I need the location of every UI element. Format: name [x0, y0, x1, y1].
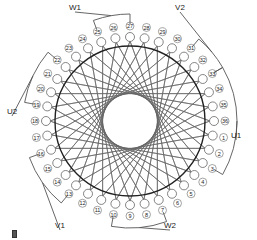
slot-circle: [97, 38, 106, 47]
stator-winding-svg: 1234567891011121314151617181920212223242…: [0, 0, 257, 240]
slot-number-label: 15: [45, 166, 51, 172]
coil-lines: [50, 41, 210, 201]
winding-diagram: 1234567891011121314151617181920212223242…: [0, 0, 257, 240]
slot-number-label: 19: [33, 102, 39, 108]
slot-number-label: 24: [79, 36, 85, 42]
slot-circle: [154, 38, 163, 47]
slot-number-label: 6: [176, 200, 179, 206]
slot-circle: [111, 34, 120, 43]
slot-circle: [53, 75, 62, 84]
slot-circle: [111, 199, 120, 208]
slot-circle: [204, 145, 213, 154]
slot-markers: 1234567891011121314151617181920212223242…: [31, 22, 229, 220]
slot-number-label: 11: [95, 207, 101, 213]
terminal-arc: [111, 212, 166, 228]
slot-circle: [190, 170, 199, 179]
slot-number-label: 27: [127, 23, 133, 29]
slot-circle: [198, 75, 207, 84]
slot-circle: [126, 201, 135, 210]
slot-number-label: 30: [174, 36, 180, 42]
terminal-lead-line: [180, 12, 212, 52]
slot-circle: [42, 117, 51, 126]
slot-number-label: 16: [38, 151, 44, 157]
slot-number-label: 32: [200, 57, 206, 63]
slot-circle: [47, 145, 56, 154]
slot-number-label: 9: [128, 213, 131, 219]
slot-circle: [43, 131, 52, 140]
slot-number-label: 21: [45, 71, 51, 77]
slot-circle: [97, 195, 106, 204]
slot-circle: [43, 102, 52, 111]
slot-circle: [72, 181, 81, 190]
stator-core-circle: [55, 46, 205, 196]
slot-number-label: 18: [32, 118, 38, 124]
slot-circle: [84, 189, 93, 198]
slot-circle: [179, 181, 188, 190]
slot-circle: [140, 34, 149, 43]
slot-circle: [179, 52, 188, 61]
slot-circle: [208, 102, 217, 111]
slot-number-label: 12: [79, 200, 85, 206]
slot-circle: [61, 170, 70, 179]
slot-number-label: 14: [54, 179, 60, 185]
slot-circle: [126, 33, 135, 42]
slot-number-label: 4: [201, 179, 204, 185]
slot-number-label: 3: [211, 166, 214, 172]
slot-number-label: 34: [216, 86, 222, 92]
slot-circle: [154, 195, 163, 204]
terminal-label-u1: U1: [231, 131, 242, 140]
slot-circle: [72, 52, 81, 61]
slot-circle: [140, 199, 149, 208]
slot-number-label: 23: [66, 45, 72, 51]
terminal-label-v1: V1: [55, 221, 65, 230]
slot-number-label: 26: [110, 25, 116, 31]
slot-circle: [210, 117, 219, 126]
slot-number-label: 25: [94, 29, 100, 35]
slot-circle: [168, 44, 177, 53]
terminal-lead-line: [75, 12, 111, 16]
slot-circle: [168, 189, 177, 198]
slot-number-label: 36: [222, 118, 228, 124]
slot-circle: [204, 88, 213, 97]
slot-circle: [198, 159, 207, 168]
slot-circle: [53, 159, 62, 168]
slot-number-label: 29: [159, 29, 165, 35]
terminal-arc: [29, 154, 67, 203]
slot-circle: [84, 44, 93, 53]
slot-number-label: 2: [218, 151, 221, 157]
terminal-label-v2: V2: [175, 3, 185, 12]
slot-number-label: 35: [220, 102, 226, 108]
slot-number-label: 17: [33, 135, 39, 141]
slot-number-label: 33: [209, 71, 215, 77]
slot-number-label: 5: [190, 191, 193, 197]
terminal-label-u2: U2: [7, 107, 18, 116]
terminal-label-w2: W2: [164, 221, 177, 230]
page-marker-icon: [12, 230, 17, 238]
slot-number-label: 8: [145, 212, 148, 218]
slot-number-label: 1: [222, 135, 225, 141]
slot-circle: [61, 63, 70, 72]
slot-circle: [208, 131, 217, 140]
slot-circle: [47, 88, 56, 97]
slot-circle: [190, 63, 199, 72]
slot-number-label: 28: [143, 25, 149, 31]
terminal-label-w1: W1: [69, 3, 82, 12]
slot-number-label: 20: [38, 86, 44, 92]
